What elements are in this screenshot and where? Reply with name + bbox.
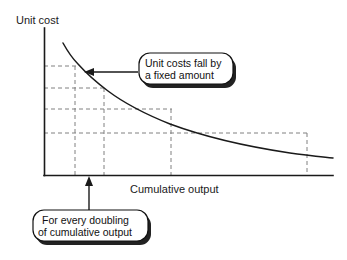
x-axis-label: Cumulative output: [130, 183, 219, 195]
figure-canvas: Unit cost Cumulative output Unit costs f…: [0, 0, 347, 260]
doubling-callout: For every doubling of cumulative output: [33, 210, 151, 245]
y-axis-label: Unit cost: [16, 14, 59, 26]
learning-curve-figure: Unit cost Cumulative output Unit costs f…: [0, 0, 347, 260]
doubling-callout-line-1: For every doubling: [42, 214, 129, 226]
doubling-callout-line-2: of cumulative output: [38, 226, 132, 238]
up-arrow-icon: [85, 176, 93, 211]
curve-callout-line-2: a fixed amount: [145, 69, 214, 81]
curve-callout-line-1: Unit costs fall by: [145, 57, 222, 69]
left-arrow-icon: [84, 68, 138, 76]
curve-callout: Unit costs fall by a fixed amount: [139, 53, 236, 88]
